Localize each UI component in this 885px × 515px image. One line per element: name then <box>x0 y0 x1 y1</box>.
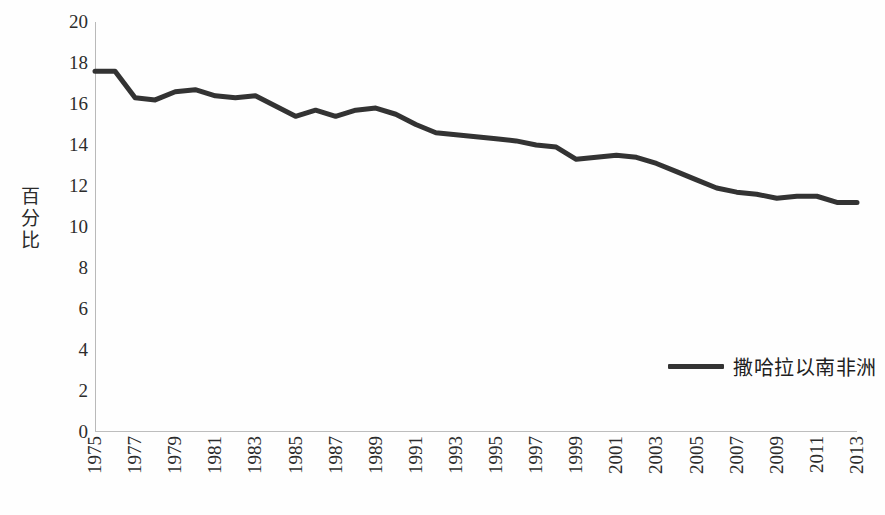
series-line-sub-saharan-africa <box>95 71 857 202</box>
chart-legend: 撒哈拉以南非洲 <box>668 352 877 381</box>
y-tick-label: 2 <box>46 380 88 402</box>
y-tick-label: 14 <box>46 134 88 156</box>
y-tick-label: 0 <box>46 421 88 443</box>
y-tick-label: 18 <box>46 52 88 74</box>
x-tick-label: 1991 <box>405 436 427 506</box>
x-tick-label: 1995 <box>485 436 507 506</box>
x-tick-label: 2013 <box>846 436 868 506</box>
x-tick-label: 1993 <box>445 436 467 506</box>
x-tick-label: 1981 <box>204 436 226 506</box>
x-tick-label: 1983 <box>244 436 266 506</box>
x-tick-label: 1979 <box>164 436 186 506</box>
x-tick-label: 2001 <box>605 436 627 506</box>
x-tick-label: 1975 <box>84 436 106 506</box>
x-tick-label: 2007 <box>726 436 748 506</box>
y-tick-label: 20 <box>46 11 88 33</box>
y-tick-label: 4 <box>46 339 88 361</box>
legend-line-swatch-icon <box>668 364 724 369</box>
x-tick-label: 2005 <box>686 436 708 506</box>
x-tick-label: 1987 <box>325 436 347 506</box>
x-tick-label: 2011 <box>806 436 828 506</box>
y-tick-label: 6 <box>46 298 88 320</box>
x-tick-label: 2003 <box>645 436 667 506</box>
x-tick-label: 1989 <box>365 436 387 506</box>
x-axis-tick-labels: 1975197719791981198319851987198919911993… <box>95 436 857 515</box>
y-tick-label: 12 <box>46 175 88 197</box>
y-tick-label: 16 <box>46 93 88 115</box>
x-tick-label: 1999 <box>565 436 587 506</box>
x-tick-label: 1997 <box>525 436 547 506</box>
y-tick-label: 8 <box>46 257 88 279</box>
y-axis-tick-labels: 20181614121086420 <box>40 0 88 515</box>
chart-page: 百分比 20181614121086420 197519771979198119… <box>0 0 885 515</box>
x-tick-label: 2009 <box>766 436 788 506</box>
x-tick-label: 1985 <box>285 436 307 506</box>
y-tick-label: 10 <box>46 216 88 238</box>
legend-label: 撒哈拉以南非洲 <box>733 352 877 381</box>
x-tick-label: 1977 <box>124 436 146 506</box>
